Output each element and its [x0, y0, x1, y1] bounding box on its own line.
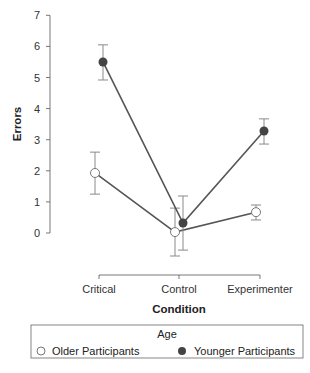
y-tick-label: 7	[34, 9, 40, 21]
y-tick-label: 1	[34, 196, 40, 208]
y-tick-label: 3	[34, 134, 40, 146]
series-younger	[98, 45, 269, 250]
y-axis: 01234567	[34, 9, 50, 239]
filled-circle-marker	[179, 219, 188, 228]
x-axis-title: Condition	[152, 303, 206, 315]
y-tick-label: 6	[34, 40, 40, 52]
legend-label-older: Older Participants	[52, 345, 140, 357]
y-tick-label: 2	[34, 165, 40, 177]
filled-circle-marker	[99, 57, 108, 66]
x-axis: CriticalControlExperimenter	[82, 275, 293, 295]
y-tick-label: 4	[34, 103, 40, 115]
legend-title: Age	[157, 328, 177, 340]
open-circle-marker	[91, 168, 100, 177]
y-tick-label: 5	[34, 72, 40, 84]
y-tick-label: 0	[34, 227, 40, 239]
chart: 01234567 CriticalControlExperimenter Err…	[0, 0, 310, 373]
filled-circle-icon	[178, 347, 186, 355]
series-older	[90, 152, 261, 256]
x-tick-label: Critical	[82, 283, 116, 295]
filled-circle-marker	[260, 126, 269, 135]
legend-label-younger: Younger Participants	[194, 345, 296, 357]
open-circle-marker	[171, 228, 180, 237]
series-layer	[90, 45, 269, 256]
x-tick-label: Experimenter	[227, 283, 293, 295]
open-circle-marker	[252, 208, 261, 217]
open-circle-icon	[37, 347, 45, 355]
x-tick-label: Control	[161, 283, 196, 295]
legend: Age Older Participants Younger Participa…	[31, 325, 303, 358]
y-axis-title: Errors	[11, 107, 23, 142]
